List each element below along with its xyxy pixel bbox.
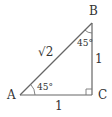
vertex-label-b: B: [89, 4, 98, 18]
side-label-vertical: 1: [95, 52, 103, 66]
vertex-label-c: C: [98, 88, 107, 102]
angle-label-b: 45°: [77, 38, 93, 48]
right-angle-marker: [86, 89, 92, 95]
angle-label-a: 45°: [37, 82, 53, 92]
side-label-hypotenuse: √2: [38, 45, 53, 59]
vertex-label-a: A: [6, 88, 16, 102]
triangle-diagram: B A C √2 1 1 45° 45°: [0, 0, 112, 117]
side-label-horizontal: 1: [55, 99, 63, 113]
angle-arc-b: [85, 30, 92, 33]
angle-arc-a: [31, 84, 35, 95]
